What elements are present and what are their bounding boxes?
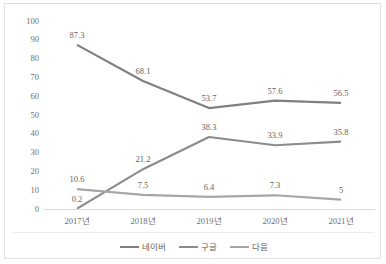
legend-swatch-icon — [230, 246, 249, 248]
y-axis: 0102030405060708090100 — [9, 4, 39, 264]
legend-item[interactable]: 구글 — [179, 242, 217, 252]
data-point-label: 56.5 — [334, 89, 349, 98]
data-point-label: 33.9 — [268, 131, 283, 140]
y-axis-tick: 40 — [11, 129, 39, 138]
line-series-group — [44, 21, 374, 209]
data-point-label: 6.4 — [204, 183, 215, 192]
data-point-label: 7.3 — [270, 181, 281, 190]
x-axis-tick: 2017년 — [44, 215, 110, 227]
data-point-label: 10.6 — [70, 175, 85, 184]
y-axis-tick: 30 — [11, 148, 39, 157]
data-point-label: 38.3 — [202, 123, 217, 132]
y-axis-tick: 90 — [11, 35, 39, 44]
legend-item[interactable]: 다음 — [230, 242, 268, 252]
data-point-label: 53.7 — [202, 94, 217, 103]
y-axis-tick: 60 — [11, 92, 39, 101]
legend-label: 네이버 — [142, 242, 166, 252]
y-axis-tick: 80 — [11, 54, 39, 63]
data-point-label: 0.2 — [72, 195, 83, 204]
plot-area: 87.368.153.757.656.50.221.238.333.935.81… — [44, 21, 374, 209]
data-point-label: 21.2 — [136, 155, 151, 164]
legend-separator — [13, 232, 374, 233]
x-axis-tick: 2018년 — [110, 215, 176, 227]
data-point-label: 57.6 — [268, 87, 283, 96]
x-axis-tick: 2020년 — [242, 215, 308, 227]
y-axis-tick: 10 — [11, 186, 39, 195]
x-axis-tick: 2019년 — [176, 215, 242, 227]
chart-container: 0102030405060708090100 87.368.153.757.65… — [4, 3, 381, 259]
legend-label: 다음 — [252, 242, 268, 252]
y-axis-tick: 100 — [11, 17, 39, 26]
legend-item[interactable]: 네이버 — [120, 242, 166, 252]
legend-label: 구글 — [201, 242, 217, 252]
y-axis-tick: 70 — [11, 73, 39, 82]
chart-legend: 네이버구글다음 — [5, 237, 382, 257]
data-point-label: 35.8 — [334, 128, 349, 137]
x-axis: 2017년2018년2019년2020년2021년 — [44, 215, 375, 231]
data-point-label: 5 — [339, 186, 343, 195]
y-axis-tick: 20 — [11, 167, 39, 176]
y-axis-tick: 50 — [11, 111, 39, 120]
legend-swatch-icon — [120, 246, 139, 248]
legend-swatch-icon — [179, 246, 198, 248]
x-axis-line — [44, 209, 375, 210]
data-point-label: 68.1 — [136, 67, 151, 76]
y-axis-tick: 0 — [11, 205, 39, 214]
x-axis-tick: 2021년 — [308, 215, 374, 227]
data-point-label: 87.3 — [70, 31, 85, 40]
data-point-label: 7.5 — [138, 181, 149, 190]
